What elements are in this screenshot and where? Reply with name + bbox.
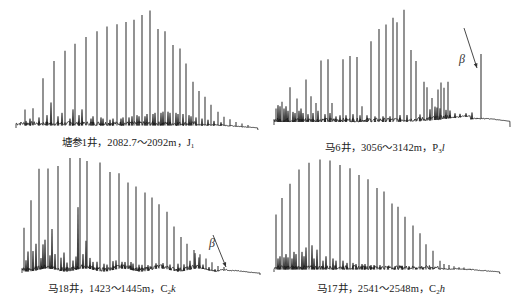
- caption-depth: 2541～2548m，: [358, 283, 429, 294]
- chromatogram-plot-4: [0, 0, 517, 280]
- n-alkane-peaks: [276, 160, 470, 271]
- chromatogram-panel-4: 马17井，2541～2548m，C2h: [0, 0, 517, 300]
- baseline-trace: [274, 266, 500, 275]
- caption-formation-suffix: h: [440, 283, 445, 294]
- chromatogram-caption-4: 马17井，2541～2548m，C2h: [317, 280, 445, 296]
- caption-well: 马17井，: [317, 283, 358, 294]
